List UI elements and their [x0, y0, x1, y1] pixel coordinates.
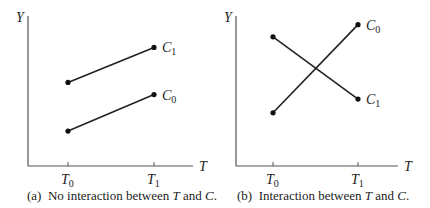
data-point-C1: [270, 34, 275, 39]
data-point-C0: [355, 22, 360, 27]
y-axis-label: Y: [16, 10, 26, 25]
caption: (b) Interaction between T and C.: [237, 188, 409, 203]
caption: (a) No interaction between T and C.: [27, 188, 217, 203]
series-label-C1-sub: 1: [375, 98, 380, 109]
series-label-C1: C1: [366, 92, 380, 109]
panel-b: YTT0T1C0C1(b) Interaction between T and …: [224, 10, 413, 203]
series-line-C0: [68, 95, 154, 131]
series-label-C0-sub: 0: [171, 94, 176, 105]
caption-var2: C: [397, 188, 406, 203]
series-label-C0: C0: [162, 88, 176, 105]
caption-prefix: (a) No interaction between: [27, 188, 172, 203]
x-tick-label: T1: [351, 172, 364, 189]
caption-mid: and: [372, 188, 397, 203]
series-label-C1-sub: 1: [171, 46, 176, 57]
caption-mid: and: [180, 188, 205, 203]
panel-a: YTT0T1C1C0(a) No interaction between T a…: [16, 10, 217, 203]
x-tick-label: T0: [61, 172, 74, 189]
series-line-C1: [68, 47, 154, 82]
x-tick-label: T0: [266, 172, 279, 189]
y-axis-label: Y: [224, 10, 234, 25]
data-point-C1: [65, 80, 70, 85]
data-point-C0: [65, 128, 70, 133]
series-label-C1: C1: [162, 40, 176, 57]
caption-prefix: (b) Interaction between: [237, 188, 365, 203]
x-tick-label: T1: [147, 172, 160, 189]
caption-suffix: .: [214, 188, 217, 203]
series-line-C1: [273, 37, 358, 99]
interaction-diagrams: YTT0T1C1C0(a) No interaction between T a…: [0, 0, 430, 208]
series-label-C0-sub: 0: [375, 24, 380, 35]
x-axis-label: T: [199, 159, 208, 174]
data-point-C1: [355, 97, 360, 102]
x-axis-label: T: [404, 159, 413, 174]
data-point-C0: [151, 92, 156, 97]
caption-var2: C: [205, 188, 214, 203]
data-point-C1: [151, 45, 156, 50]
series-label-C0: C0: [366, 18, 380, 35]
data-point-C0: [270, 110, 275, 115]
caption-suffix: .: [406, 188, 409, 203]
